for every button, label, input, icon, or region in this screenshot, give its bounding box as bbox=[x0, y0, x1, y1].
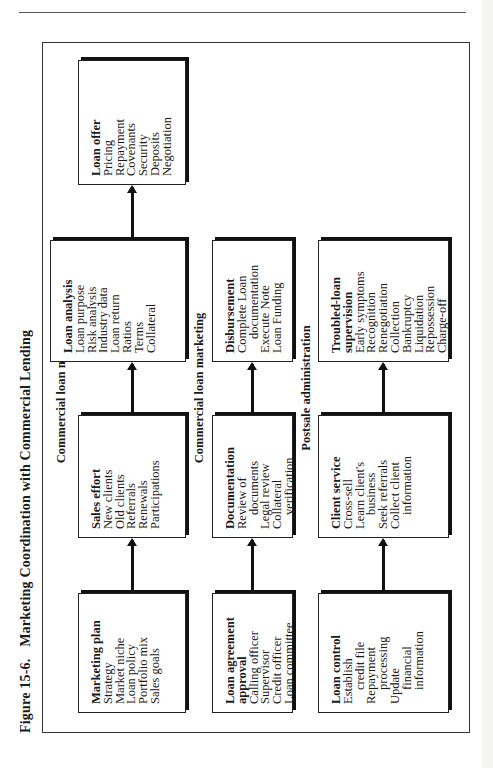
box-item: Loan committee bbox=[284, 594, 296, 704]
figure-title: Marketing Coordination with Commercial L… bbox=[18, 330, 33, 647]
arrow-right-icon bbox=[382, 364, 385, 415]
box-loan-analysis: Loan analysis Loan purpose Risk analysis… bbox=[50, 240, 186, 362]
box-item: Collateral bbox=[146, 241, 158, 353]
arrow-right-icon bbox=[382, 540, 385, 593]
arrow-right-icon bbox=[131, 540, 134, 593]
figure-number: Figure 15-6. bbox=[18, 659, 33, 733]
box-marketing-plan: Marketing plan Strategy Market niche Loa… bbox=[78, 593, 186, 713]
section-label-loan-marketing-2: Commercial loan marketing bbox=[192, 313, 207, 463]
box-item: Sales goals bbox=[150, 594, 162, 704]
box-loan-agreement-approval: Loan agreement approval Calling officer … bbox=[212, 593, 293, 713]
arrow-right-icon bbox=[131, 187, 134, 240]
box-item: information bbox=[402, 416, 414, 529]
box-disbursement: Disbursement Complete Loan documentation… bbox=[212, 240, 293, 362]
arrow-right-icon bbox=[251, 364, 254, 415]
box-item: Loan Funding bbox=[272, 241, 284, 353]
arrow-right-icon bbox=[131, 364, 134, 415]
box-client-service: Client service Cross-sell Learn client's… bbox=[318, 415, 449, 538]
box-item: verification bbox=[284, 416, 296, 529]
section-label-postsale-administration: Postsale administration bbox=[299, 325, 314, 450]
box-item: information bbox=[414, 594, 426, 704]
figure-caption: Figure 15-6. Marketing Coordination with… bbox=[18, 330, 34, 733]
box-documentation: Documentation Review of documents Legal … bbox=[212, 415, 293, 538]
rotated-page: Figure 15-6. Marketing Coordination with… bbox=[0, 0, 493, 768]
box-item: Charge-off bbox=[437, 241, 449, 353]
box-loan-control: Loan control Establish credit file Repay… bbox=[318, 593, 449, 713]
box-sales-effort: Sales effort New clients Old clients Ref… bbox=[78, 415, 186, 538]
box-troubled-loan-supervision: Troubled-loan supervision Early symptoms… bbox=[318, 240, 449, 362]
box-item: Negotiation bbox=[162, 61, 174, 176]
arrow-right-icon bbox=[251, 540, 254, 593]
box-loan-offer: Loan offer Pricing Repayment Covenants S… bbox=[78, 60, 186, 185]
box-item: Participations bbox=[150, 416, 162, 529]
